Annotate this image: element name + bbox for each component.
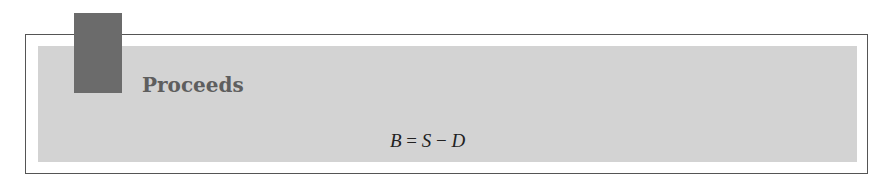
minus-sign: − [436,130,447,151]
equals-sign: = [406,130,417,151]
equation-term-s: S [422,130,432,151]
section-tab-marker [74,13,122,93]
equation-lhs: B [390,130,402,151]
equation-term-d: D [452,130,466,151]
box-title: Proceeds [142,73,244,97]
equation: B = S − D [390,130,465,152]
